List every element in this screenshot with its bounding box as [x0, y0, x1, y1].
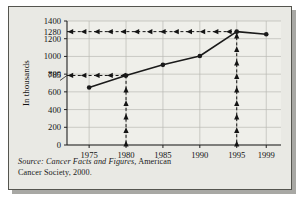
data-point-marker: [198, 54, 203, 59]
y-tick-label: 0: [57, 140, 61, 150]
y-tick-leader-785: [60, 75, 67, 80]
y-tick-label: 600: [48, 87, 61, 97]
y-tick-label: 200: [48, 122, 61, 132]
data-point-marker: [234, 29, 239, 34]
source-note: Source: Cancer Facts and Figures, Americ…: [18, 157, 286, 178]
data-point-marker: [161, 63, 166, 68]
data-point-marker: [124, 73, 129, 78]
plot-background: [67, 21, 281, 145]
source-publisher: American: [136, 157, 171, 166]
data-point-marker: [264, 32, 269, 37]
figure-root: 0200400600785800100012001280140019751980…: [0, 0, 300, 198]
y-axis-title: In thousands: [21, 60, 31, 106]
source-line2: Cancer Society, 2000.: [18, 168, 92, 177]
y-tick-label: 800: [48, 69, 61, 79]
y-tick-label: 1000: [44, 51, 61, 61]
chart-area: 0200400600785800100012001280140019751980…: [9, 7, 293, 159]
source-title: Cancer Facts and Figures,: [44, 157, 137, 166]
figure-card: 0200400600785800100012001280140019751980…: [8, 6, 292, 190]
line-chart: 0200400600785800100012001280140019751980…: [9, 7, 293, 159]
data-point-marker: [87, 85, 92, 90]
y-tick-label: 1280: [44, 27, 61, 37]
y-tick-label: 400: [48, 105, 61, 115]
y-tick-label: 1400: [44, 16, 61, 26]
source-label: Source:: [18, 157, 44, 166]
